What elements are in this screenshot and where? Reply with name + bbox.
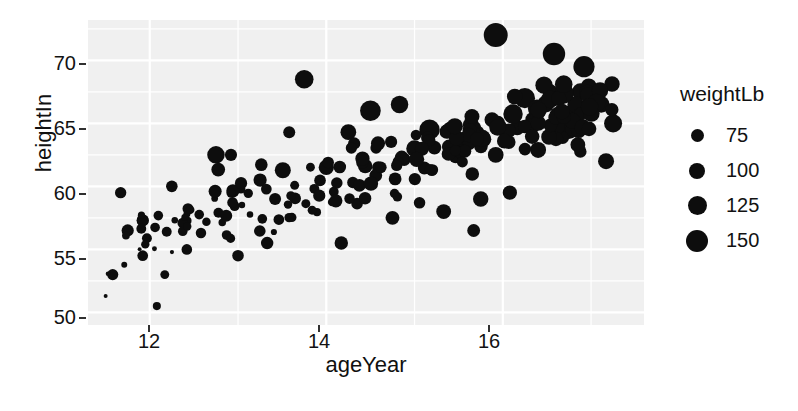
data-point xyxy=(329,194,342,207)
data-point xyxy=(525,129,540,144)
data-point xyxy=(409,173,421,185)
data-point xyxy=(166,181,178,193)
y-tick-mark-55 xyxy=(79,258,86,260)
data-point xyxy=(503,186,517,200)
data-point xyxy=(226,234,235,243)
data-point xyxy=(598,153,614,169)
data-point xyxy=(375,162,387,174)
legend-dot-icon xyxy=(688,196,707,215)
data-point xyxy=(389,173,402,186)
data-point xyxy=(254,225,266,237)
data-point xyxy=(239,202,245,208)
data-point xyxy=(209,185,222,198)
x-axis-title: ageYear xyxy=(88,352,644,378)
x-tick-label-16: 16 xyxy=(469,330,509,353)
data-point xyxy=(261,184,272,195)
data-point xyxy=(530,102,547,119)
data-point xyxy=(172,217,179,224)
y-tick-label-50: 50 xyxy=(54,306,76,329)
y-tick-label-55: 55 xyxy=(54,247,76,270)
data-point xyxy=(554,104,570,120)
data-point xyxy=(290,181,299,190)
legend-rows: 75100125150 xyxy=(678,118,796,258)
data-point xyxy=(152,246,157,251)
data-point xyxy=(470,132,484,146)
data-point xyxy=(286,191,295,200)
data-point xyxy=(393,192,403,202)
data-point xyxy=(360,100,381,121)
data-point xyxy=(269,193,281,205)
data-point xyxy=(141,240,149,248)
data-point xyxy=(235,177,247,189)
data-point xyxy=(507,89,523,105)
data-point xyxy=(271,229,277,235)
data-point xyxy=(284,200,292,208)
data-point xyxy=(581,98,598,115)
data-point xyxy=(183,222,191,230)
data-point xyxy=(503,104,522,123)
data-point xyxy=(457,156,468,167)
data-point xyxy=(484,23,508,47)
data-point xyxy=(207,146,225,164)
scatter-canvas xyxy=(88,20,644,325)
scatter-plot-figure: heightIn 70 65 60 55 50 12 14 16 ageYear… xyxy=(0,0,798,411)
data-point xyxy=(225,149,237,161)
legend-item[interactable]: 125 xyxy=(678,188,796,223)
data-point xyxy=(414,197,426,209)
data-point xyxy=(570,137,585,152)
legend-item[interactable]: 75 xyxy=(678,118,796,153)
data-point xyxy=(364,176,378,190)
data-point xyxy=(153,302,161,310)
data-point xyxy=(473,191,488,206)
data-point xyxy=(301,199,310,208)
data-point xyxy=(425,164,435,174)
data-point xyxy=(447,118,463,134)
data-point xyxy=(255,158,268,171)
data-point xyxy=(355,151,369,165)
data-point xyxy=(186,205,195,214)
data-point xyxy=(137,250,148,261)
data-point xyxy=(313,190,325,202)
data-point xyxy=(488,147,504,163)
data-point xyxy=(353,179,366,192)
data-point xyxy=(154,211,164,221)
data-point xyxy=(162,227,172,237)
data-point xyxy=(181,214,188,221)
data-point xyxy=(211,163,225,177)
data-point xyxy=(136,224,146,234)
data-point xyxy=(604,114,622,132)
data-point xyxy=(247,211,254,218)
legend-dot-icon xyxy=(686,230,708,252)
data-point xyxy=(227,197,238,208)
data-point xyxy=(306,163,315,172)
legend-key-swatch xyxy=(678,196,716,215)
legend-dot-icon xyxy=(691,129,704,142)
data-point xyxy=(391,160,402,171)
data-point xyxy=(170,250,174,254)
legend-item[interactable]: 100 xyxy=(678,153,796,188)
data-point xyxy=(489,119,505,135)
legend-key-swatch xyxy=(678,230,716,252)
data-point xyxy=(411,130,422,141)
legend-item-label: 125 xyxy=(726,194,759,217)
data-point xyxy=(385,136,397,148)
data-point xyxy=(359,192,371,204)
legend-item-label: 150 xyxy=(726,229,759,252)
data-point xyxy=(322,157,334,169)
data-point xyxy=(121,262,127,268)
data-point xyxy=(467,224,480,237)
legend-item[interactable]: 150 xyxy=(678,223,796,258)
legend-item-label: 100 xyxy=(726,159,759,182)
x-tick-label-12: 12 xyxy=(129,330,169,353)
data-point xyxy=(386,211,400,225)
data-point xyxy=(555,75,573,93)
data-point xyxy=(220,210,232,222)
legend-title: weightLb xyxy=(680,82,796,106)
data-point xyxy=(543,43,565,65)
data-point xyxy=(409,152,424,167)
data-point xyxy=(275,162,291,178)
legend-key-swatch xyxy=(678,129,716,142)
data-point xyxy=(160,270,169,279)
x-tick-label-14: 14 xyxy=(299,330,339,353)
y-tick-mark-60 xyxy=(79,193,86,195)
